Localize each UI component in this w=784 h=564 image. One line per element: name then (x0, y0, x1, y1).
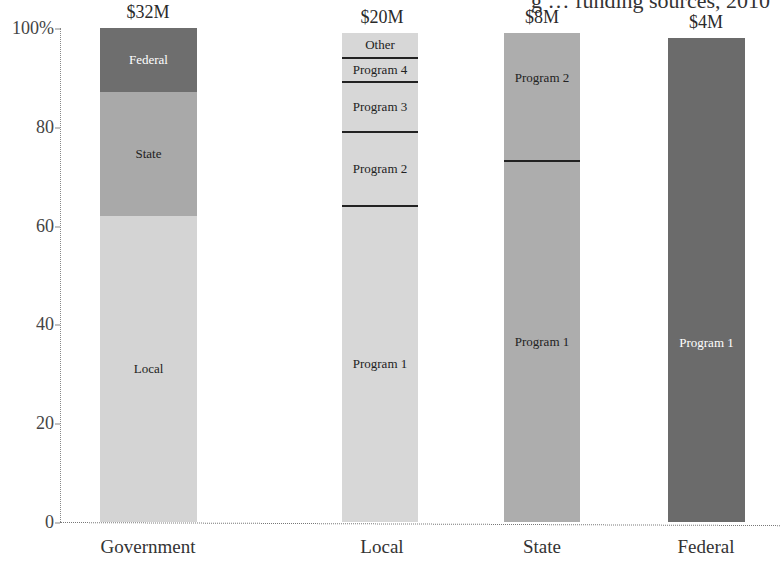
segment-other: Other (342, 33, 418, 58)
x-tick-label: State (462, 536, 622, 558)
bar-total-label: $8M (472, 7, 612, 28)
segment-program-1: Program 1 (504, 161, 580, 522)
segment-divider (342, 131, 418, 133)
y-tick-80: 80 (0, 117, 60, 138)
segment-divider (342, 205, 418, 207)
x-tick-label: Local (302, 536, 462, 558)
segment-label: Other (342, 37, 418, 53)
bar-total-label: $20M (312, 7, 452, 28)
segment-program-1: Program 1 (668, 38, 745, 522)
segment-label: Federal (100, 52, 197, 68)
segment-federal: Federal (100, 28, 197, 92)
x-tick-label: Federal (626, 536, 784, 558)
segment-label: Local (100, 361, 197, 377)
segment-label: Program 1 (504, 334, 580, 350)
bar-government: LocalStateFederal (100, 28, 197, 522)
bar-local: Program 1Program 2Program 3Program 4Othe… (342, 33, 418, 522)
segment-state: State (100, 92, 197, 216)
segment-label: State (100, 146, 197, 162)
segment-label: Program 4 (342, 62, 418, 78)
x-axis (60, 522, 780, 526)
bar-federal: Program 1 (668, 38, 745, 522)
y-tick-20: 20 (0, 413, 60, 434)
segment-program-2: Program 2 (504, 33, 580, 161)
y-tick-100: 100% (0, 18, 60, 39)
y-tick-0: 0 (0, 512, 60, 533)
y-axis (60, 28, 61, 522)
segment-divider (504, 160, 580, 162)
y-tick-60: 60 (0, 216, 60, 237)
segment-label: Program 1 (668, 335, 745, 351)
segment-program-1: Program 1 (342, 206, 418, 522)
segment-label: Program 1 (342, 356, 418, 372)
bar-state: Program 1Program 2 (504, 33, 580, 522)
segment-program-4: Program 4 (342, 58, 418, 83)
segment-program-3: Program 3 (342, 82, 418, 131)
segment-program-2: Program 2 (342, 132, 418, 206)
x-tick-label: Government (68, 536, 228, 558)
segment-local: Local (100, 216, 197, 522)
segment-label: Program 2 (342, 161, 418, 177)
y-tick-40: 40 (0, 314, 60, 335)
segment-divider (342, 81, 418, 83)
segment-label: Program 2 (504, 70, 580, 86)
bar-total-label: $4M (636, 12, 776, 33)
stacked-bar-chart: g … funding sources, 2010 0 20 40 60 80 … (0, 0, 784, 564)
segment-label: Program 3 (342, 99, 418, 115)
segment-divider (342, 57, 418, 59)
bar-total-label: $32M (78, 2, 218, 23)
